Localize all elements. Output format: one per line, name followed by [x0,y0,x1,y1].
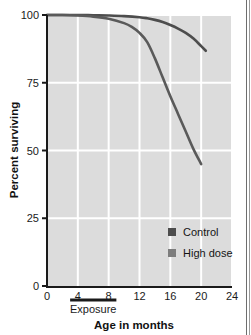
x-axis-title: Age in months [94,319,174,331]
x-tick-label: 20 [195,290,207,302]
y-axis-title: Percent surviving [8,102,20,199]
legend-swatch [168,249,176,257]
right-edge-border [246,0,247,335]
x-tick-label: 0 [44,290,50,302]
chart-figure: 0255075100 04812162024 Percent surviving… [0,0,251,335]
x-tick-label: 12 [133,290,145,302]
y-tick-label: 0 [33,280,39,292]
x-tick-label: 24 [226,290,238,302]
y-tick-label: 100 [21,9,39,21]
x-tick-label: 16 [164,290,176,302]
legend-label: High dose [183,247,233,259]
y-axis-tick-labels: 0255075100 [21,9,39,292]
y-tick-label: 25 [27,212,39,224]
right-edge-border-secondary [249,0,250,335]
legend-label: Control [183,226,218,238]
y-tick-label: 75 [27,77,39,89]
survival-line-chart: 0255075100 04812162024 Percent surviving… [0,0,251,335]
y-tick-label: 50 [27,145,39,157]
exposure-label: Exposure [70,303,116,315]
legend-swatch [168,228,176,236]
